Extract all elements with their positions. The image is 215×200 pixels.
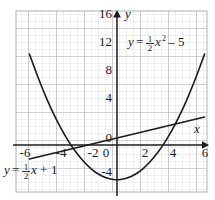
x-tick-label: 2 (142, 145, 149, 160)
x-tick-label: 0 (103, 145, 110, 160)
line-eq-coef-denominator: 2 (24, 171, 29, 181)
y-tick-label: 12 (99, 34, 112, 49)
line-eq-lhs: y (2, 162, 10, 177)
x-tick-label: -4 (56, 145, 67, 160)
coordinate-graph: -6 -4 -2 0 2 4 6 16 12 8 4 0 -4 x y y = … (0, 0, 215, 200)
x-tick-label: -2 (88, 145, 99, 160)
y-tick-label: 16 (99, 6, 113, 21)
parabola-eq-minus: – (167, 34, 175, 49)
y-axis-label: y (123, 6, 131, 21)
x-tick-label: -6 (20, 145, 31, 160)
parabola-eq-variable: x (154, 34, 161, 49)
x-axis-label: x (193, 121, 200, 136)
graph-page: -6 -4 -2 0 2 4 6 16 12 8 4 0 -4 x y y = … (0, 0, 215, 200)
x-tick-label: 4 (170, 145, 177, 160)
y-tick-label: 4 (106, 90, 113, 105)
line-eq-equals: = (12, 162, 19, 177)
parabola-eq-lhs: y (126, 34, 134, 49)
line-eq-plus: + (40, 162, 47, 177)
line-eq-constant: 1 (51, 162, 58, 177)
y-tick-label: 8 (106, 62, 113, 77)
parabola-eq-constant: 5 (178, 34, 185, 49)
y-tick-label-negative-four: -4 (101, 164, 112, 179)
parabola-eq-coef-denominator: 2 (148, 43, 153, 53)
x-tick-label: 6 (202, 145, 209, 160)
parabola-eq-exponent: 2 (162, 34, 166, 43)
y-tick-label: 0 (106, 130, 113, 145)
parabola-eq-equals: = (136, 34, 143, 49)
line-eq-variable: x (30, 162, 37, 177)
